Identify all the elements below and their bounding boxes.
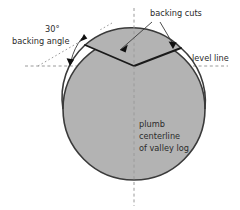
centerline-label-line-2: centerline [139, 131, 180, 141]
diagram-figure: backing cuts 30° backing angle level lin… [0, 0, 240, 210]
valley-log-cross-section-diagram: backing cuts 30° backing angle level lin… [0, 0, 240, 210]
centerline-label-line-1: plumb [139, 119, 165, 129]
backing-angle-name-label: backing angle [12, 36, 69, 46]
level-line-label: level line [192, 53, 229, 63]
backing-cuts-label: backing cuts [150, 8, 202, 18]
centerline-label-line-3: of valley log [139, 143, 189, 153]
backing-angle-arrowhead-bottom-icon [67, 58, 75, 66]
backing-angle-value-label: 30° [45, 24, 60, 34]
